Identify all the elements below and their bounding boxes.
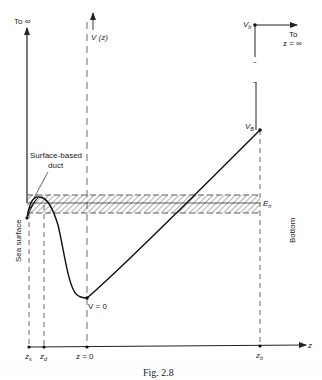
v-B-point bbox=[258, 128, 262, 132]
v-of-z-label: V (z) bbox=[91, 33, 108, 42]
e-n-label: En bbox=[263, 199, 271, 209]
surface-duct-label-1: Surface-based bbox=[30, 151, 82, 160]
to-z-inf-label-2: z = ∞ bbox=[283, 39, 302, 48]
v-b-label: Vb bbox=[243, 20, 251, 30]
tick-z-b: zb bbox=[255, 351, 263, 361]
energy-band bbox=[27, 195, 260, 213]
bottom-label: Bottom bbox=[288, 217, 297, 243]
v-zero-label: V = 0 bbox=[88, 302, 107, 311]
tick-z-s: zs bbox=[24, 352, 32, 362]
break-mark-upper: ~ bbox=[253, 59, 257, 65]
tick-z-zero: z = 0 bbox=[76, 352, 94, 361]
sea-surface-label: Sea surface bbox=[14, 219, 23, 262]
figure-2-8: To ∞ V (z) Surface-based duct V = 0 VB ~… bbox=[0, 0, 322, 380]
to-z-inf-label-1: To bbox=[289, 30, 298, 39]
z-axis-label: z bbox=[307, 341, 312, 350]
break-mark-lower: ~ bbox=[253, 79, 257, 85]
tick-z-d: zd bbox=[39, 352, 48, 362]
surface-duct-label-2: duct bbox=[48, 161, 64, 170]
to-infinity-label: To ∞ bbox=[14, 17, 31, 26]
z-axis bbox=[29, 345, 306, 347]
surface-duct-leader bbox=[34, 172, 48, 198]
v-zero-point bbox=[85, 296, 89, 300]
figure-caption: Fig. 2.8 bbox=[143, 367, 174, 378]
v-B-label: VB bbox=[245, 122, 254, 132]
